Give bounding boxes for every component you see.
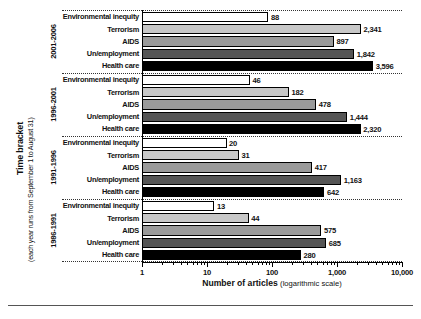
bar-row: Health care280: [62, 249, 402, 261]
bar[interactable]: [142, 61, 373, 71]
bar-row: Un/employment1,444: [62, 111, 402, 123]
panel-2001-2006: Environmental inequity88Terrorism2,341AI…: [62, 10, 402, 73]
bar-value-label: 1,444: [347, 112, 368, 121]
category-label: Health care: [62, 251, 142, 258]
category-label: AIDS: [62, 227, 142, 234]
bar-track: 31: [142, 149, 402, 161]
bar-value-label: 20: [227, 139, 238, 148]
bar-value-label: 280: [301, 250, 316, 259]
bar-value-label: 2,341: [361, 25, 382, 34]
bar[interactable]: [142, 201, 214, 211]
bar-track: 1,842: [142, 48, 402, 60]
bar[interactable]: [142, 250, 301, 260]
bracket-label-1996-2001: 1996-2001: [44, 73, 62, 136]
category-label: AIDS: [62, 164, 142, 171]
bracket-label-text: 1986-1991: [49, 213, 58, 248]
category-label: Un/employment: [62, 50, 142, 57]
category-label: Health care: [62, 125, 142, 132]
bar-value-label: 417: [312, 163, 327, 172]
bar[interactable]: [142, 150, 239, 160]
bar[interactable]: [142, 49, 354, 59]
bar-track: 642: [142, 186, 402, 198]
bracket-label-text: 2001-2006: [49, 24, 58, 59]
x-tick-minor: [238, 262, 239, 265]
x-tick-minor: [201, 262, 202, 265]
category-label: Terrorism: [62, 152, 142, 159]
bar[interactable]: [142, 99, 316, 109]
x-tick-minor: [269, 262, 270, 265]
x-tick-minor: [334, 262, 335, 265]
x-tick-minor: [197, 262, 198, 265]
bar-track: 3,596: [142, 60, 402, 72]
x-tick-minor: [246, 262, 247, 265]
x-tick-minor: [187, 262, 188, 265]
x-tick-major: [207, 262, 208, 267]
bar-row: Environmental inequity20: [62, 137, 402, 149]
y-axis-title: Time bracket: [15, 122, 25, 175]
bar-track: 2,341: [142, 23, 402, 35]
bar-value-label: 2,320: [361, 124, 382, 133]
bar[interactable]: [142, 238, 326, 248]
axis-origin-line: [142, 10, 143, 262]
x-axis-title: Number of articles (logarithmic scale): [142, 278, 402, 288]
x-tick-minor: [368, 262, 369, 265]
bar-value-label: 897: [334, 37, 349, 46]
bar-track: 575: [142, 224, 402, 236]
bracket-label-1991-1996: 1991-1996: [44, 136, 62, 199]
bar[interactable]: [142, 187, 324, 197]
bar[interactable]: [142, 213, 249, 223]
x-tick-minor: [311, 262, 312, 265]
bar-row: AIDS478: [62, 98, 402, 110]
bar-value-label: 3,596: [373, 61, 394, 70]
bar-track: 88: [142, 11, 402, 23]
bar-value-label: 46: [250, 76, 261, 85]
chart-figure: Time bracket (each year runs from Septem…: [0, 0, 421, 319]
bar-row: AIDS897: [62, 35, 402, 47]
category-label: Environmental inequity: [62, 76, 142, 83]
bar-row: Un/employment1,163: [62, 174, 402, 186]
x-tick-minor: [357, 262, 358, 265]
x-tick-label: 10,000: [391, 268, 413, 277]
bar[interactable]: [142, 225, 321, 235]
bar-value-label: 575: [321, 226, 336, 235]
bar[interactable]: [142, 124, 361, 134]
bar[interactable]: [142, 175, 341, 185]
category-label: Environmental inequity: [62, 13, 142, 20]
x-tick-minor: [262, 262, 263, 265]
bar[interactable]: [142, 112, 347, 122]
bracket-label-text: 1996-2001: [49, 87, 58, 122]
bar-value-label: 182: [289, 88, 304, 97]
bar-value-label: 13: [214, 202, 225, 211]
x-tick-minor: [382, 262, 383, 265]
bar-row: Terrorism182: [62, 86, 402, 98]
bar-value-label: 1,163: [341, 175, 362, 184]
bar-row: Terrorism44: [62, 212, 402, 224]
bar[interactable]: [142, 24, 361, 34]
bar-track: 44: [142, 212, 402, 224]
bar-row: AIDS575: [62, 224, 402, 236]
x-tick-label: 10: [203, 268, 211, 277]
bar-track: 20: [142, 137, 402, 149]
x-tick-minor: [399, 262, 400, 265]
bar[interactable]: [142, 75, 250, 85]
x-tick-minor: [292, 262, 293, 265]
category-label: AIDS: [62, 38, 142, 45]
bar[interactable]: [142, 138, 227, 148]
category-label: Un/employment: [62, 239, 142, 246]
bar-value-label: 478: [316, 100, 331, 109]
category-label: Terrorism: [62, 89, 142, 96]
x-axis-title-main: Number of articles: [202, 278, 277, 288]
bar-row: Terrorism2,341: [62, 23, 402, 35]
category-label: Un/employment: [62, 113, 142, 120]
bar-row: Un/employment685: [62, 237, 402, 249]
plot-area: Environmental inequity88Terrorism2,341AI…: [62, 10, 402, 262]
bar-row: Un/employment1,842: [62, 48, 402, 60]
category-label: Un/employment: [62, 176, 142, 183]
bar[interactable]: [142, 87, 289, 97]
bar[interactable]: [142, 162, 312, 172]
bar[interactable]: [142, 12, 268, 22]
bar-row: Environmental inequity46: [62, 74, 402, 86]
x-tick-minor: [331, 262, 332, 265]
panel-1986-1991: Environmental inequity13Terrorism44AIDS5…: [62, 199, 402, 262]
bar[interactable]: [142, 36, 334, 46]
